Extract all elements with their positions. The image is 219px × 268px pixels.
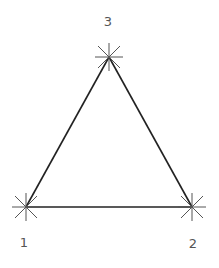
diagram-svg — [0, 0, 219, 268]
edge-2-3 — [109, 57, 192, 207]
node-1-asterisk-icon — [12, 193, 40, 221]
node-2-label: 2 — [189, 237, 197, 250]
triangle-diagram: 1 2 3 — [0, 0, 219, 268]
node-2-asterisk-icon — [178, 193, 206, 221]
node-3-asterisk-icon — [95, 43, 123, 71]
node-3-label: 3 — [104, 15, 112, 28]
edges — [26, 57, 192, 207]
node-1-label: 1 — [20, 236, 28, 249]
edge-3-1 — [26, 57, 109, 207]
